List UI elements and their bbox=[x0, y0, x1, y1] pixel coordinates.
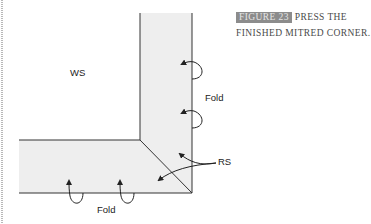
label-right-side: RS bbox=[218, 156, 231, 167]
label-fold-right: Fold bbox=[205, 92, 223, 103]
label-wrong-side: WS bbox=[70, 67, 85, 78]
figure-caption: FIGURE 23PRESS THE FINISHED MITRED CORNE… bbox=[236, 9, 371, 41]
caption-text-1: PRESS THE bbox=[295, 12, 347, 22]
caption-line-1: FIGURE 23PRESS THE bbox=[236, 9, 371, 25]
caption-text-2: FINISHED MITRED CORNER. bbox=[236, 25, 371, 41]
label-fold-bottom: Fold bbox=[97, 204, 115, 215]
figure-number-badge: FIGURE 23 bbox=[236, 12, 292, 23]
